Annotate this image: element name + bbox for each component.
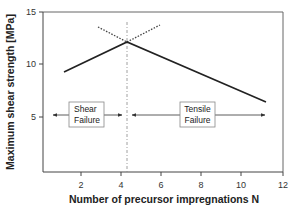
x-axis-title: Number of precursor impregnations N	[69, 193, 259, 205]
tensile-label-line1: Tensile	[184, 104, 211, 114]
shear-label-line1: Shear	[74, 104, 97, 114]
y-axis: 15 10 5 Maximum shear strength [MPa]	[4, 7, 43, 170]
x-tick-2: 2	[78, 180, 83, 190]
shear-label-line2: Failure	[74, 115, 100, 125]
x-tick-12: 12	[278, 180, 288, 190]
x-tick-10: 10	[236, 180, 246, 190]
tensile-extrapolation-line	[127, 25, 160, 42]
y-axis-title: Maximum shear strength [MPa]	[4, 14, 16, 170]
strength-series-line	[64, 42, 266, 102]
x-axis: 2 4 6 8 10 12 Number of precursor impreg…	[69, 172, 288, 205]
shear-extrapolation-line	[98, 27, 127, 42]
y-tick-5: 5	[31, 112, 36, 122]
x-tick-6: 6	[158, 180, 163, 190]
y-tick-10: 10	[26, 59, 36, 69]
plot-frame	[43, 12, 283, 172]
x-tick-8: 8	[198, 180, 203, 190]
tensile-failure-region: Tensile Failure	[132, 102, 265, 127]
tensile-label-line2: Failure	[185, 115, 211, 125]
shear-failure-region: Shear Failure	[53, 102, 122, 127]
x-tick-4: 4	[118, 180, 123, 190]
chart: 15 10 5 Maximum shear strength [MPa] 2 4…	[0, 0, 289, 214]
y-tick-15: 15	[26, 7, 36, 17]
